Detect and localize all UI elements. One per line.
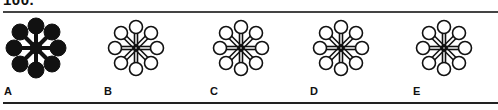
option-b-figure[interactable] (100, 16, 172, 80)
option-d-label: D (310, 85, 318, 97)
question-number: 100. (3, 0, 34, 8)
solid-snowflake-icon (0, 16, 72, 80)
option-e-figure[interactable] (408, 16, 480, 80)
option-c-figure[interactable] (205, 16, 277, 80)
option-c-label: C (210, 85, 218, 97)
top-divider (3, 11, 498, 13)
bottom-divider (3, 102, 498, 104)
option-d-figure[interactable] (305, 16, 377, 80)
option-a-label: A (4, 85, 12, 97)
option-e-label: E (413, 85, 420, 97)
outline-snowflake-icon (205, 16, 277, 80)
option-a-figure[interactable] (0, 16, 72, 80)
outline-snowflake-icon (408, 16, 480, 80)
outline-snowflake-icon (100, 16, 172, 80)
outline-snowflake-icon (305, 16, 377, 80)
option-b-label: B (104, 85, 112, 97)
